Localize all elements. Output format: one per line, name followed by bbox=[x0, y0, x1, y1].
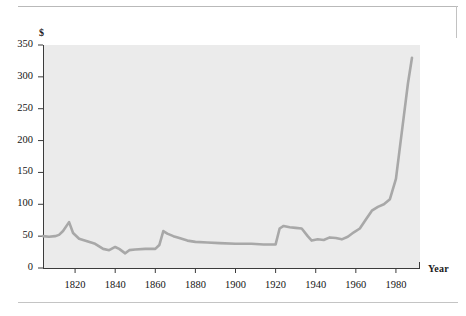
x-axis-tick-label: 1840 bbox=[95, 279, 135, 290]
y-axis-ticks bbox=[38, 45, 43, 268]
x-axis-tick-label: 1860 bbox=[135, 279, 175, 290]
y-axis-tick-label: 350 bbox=[3, 38, 33, 49]
x-axis-tick-label: 1940 bbox=[296, 279, 336, 290]
chart-plot-area: $ Year 050100150200250300350 18201840186… bbox=[0, 0, 466, 316]
y-axis-tick-label: 100 bbox=[3, 197, 33, 208]
y-axis-tick-label: 150 bbox=[3, 165, 33, 176]
x-axis-tick-label: 1900 bbox=[216, 279, 256, 290]
figure-container: $ Year 050100150200250300350 18201840186… bbox=[0, 0, 466, 316]
y-axis-tick-label: 200 bbox=[3, 134, 33, 145]
x-axis-tick-label: 1980 bbox=[376, 279, 416, 290]
y-axis-tick-label: 50 bbox=[3, 229, 33, 240]
x-axis-tick-label: 1960 bbox=[336, 279, 376, 290]
y-axis-tick-label: 0 bbox=[3, 261, 33, 272]
x-axis-tick-label: 1920 bbox=[256, 279, 296, 290]
y-axis-tick-label: 250 bbox=[3, 102, 33, 113]
x-axis-tick-label: 1880 bbox=[175, 279, 215, 290]
y-axis-tick-label: 300 bbox=[3, 70, 33, 81]
line-chart-svg bbox=[0, 0, 466, 316]
y-axis-title: $ bbox=[39, 27, 44, 38]
x-axis-title: Year bbox=[428, 263, 449, 274]
x-axis-tick-label: 1820 bbox=[55, 279, 95, 290]
plot-background bbox=[43, 45, 420, 268]
